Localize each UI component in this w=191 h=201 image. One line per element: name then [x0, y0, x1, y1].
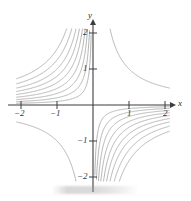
y-tick-label-1: 1 [83, 64, 88, 73]
y-axis-label: y [88, 11, 92, 20]
y-tick-label-2: 2 [83, 28, 88, 37]
hyperbola-family-plot [0, 0, 191, 201]
y-tick-label--1: −1 [77, 136, 88, 145]
x-tick-label-1: 1 [127, 109, 132, 118]
x-tick-label--2: −2 [14, 109, 25, 118]
x-tick-label--1: −1 [50, 109, 61, 118]
axes-group [8, 24, 171, 192]
y-tick-label--2: −2 [77, 172, 88, 181]
x-axis-label: x [178, 99, 182, 108]
x-tick-label-2: 2 [163, 109, 168, 118]
caption-smudge [52, 186, 138, 194]
figure-container: −2 −1 1 2 2 1 −1 −2 x y [0, 0, 191, 201]
